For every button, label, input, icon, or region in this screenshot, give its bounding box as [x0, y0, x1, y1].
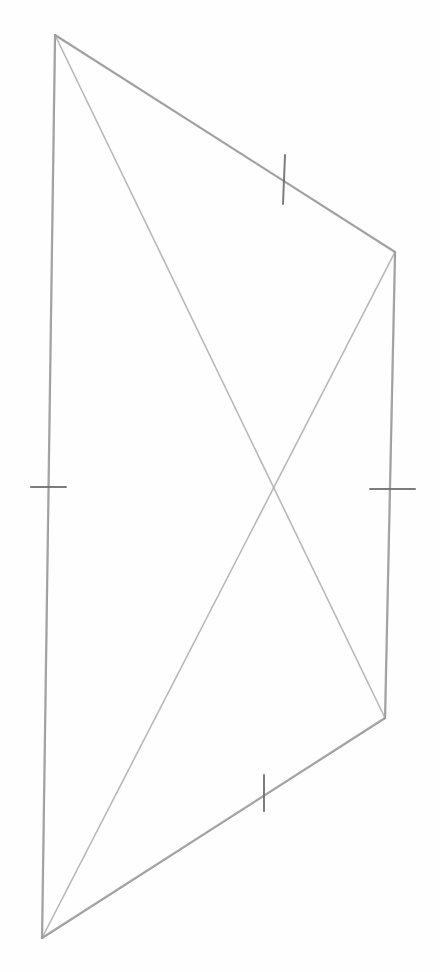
- trapezoid-diagram: [0, 0, 440, 972]
- side-bc: [385, 252, 395, 718]
- diagonal-ac: [55, 35, 385, 718]
- side-cd: [42, 718, 385, 938]
- diagonals: [42, 35, 395, 938]
- tick-mark-ab: [283, 155, 285, 204]
- congruence-tick-marks: [31, 155, 415, 811]
- sketch-canvas: [0, 0, 440, 972]
- side-ab-texture: [56, 35, 396, 252]
- quadrilateral-sides: [42, 35, 396, 938]
- diagonal-bd: [42, 252, 395, 938]
- side-bc-texture: [386, 252, 396, 718]
- side-cd-texture: [43, 718, 386, 938]
